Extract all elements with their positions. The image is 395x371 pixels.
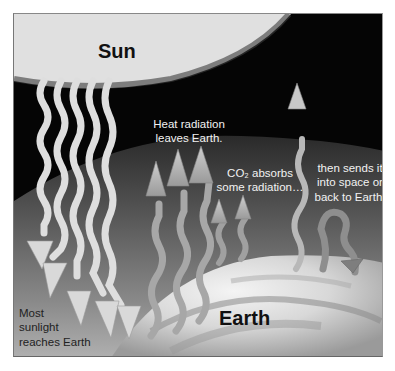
sun-label: Sun xyxy=(98,39,136,64)
greenhouse-diagram: Sun Earth Heat radiation leaves Earth. C… xyxy=(0,0,395,371)
heat-radiation-label: Heat radiation leaves Earth. xyxy=(139,117,239,146)
earth-label: Earth xyxy=(219,306,270,331)
co2-absorbs-label: CO₂ absorbs some radiation… xyxy=(212,166,308,195)
sends-back-label: then sends it into space or back to Eart… xyxy=(309,161,383,204)
diagram-frame: Sun Earth Heat radiation leaves Earth. C… xyxy=(13,13,383,357)
sunlight-reaches-label: Most sunlight reaches Earth xyxy=(19,306,119,349)
